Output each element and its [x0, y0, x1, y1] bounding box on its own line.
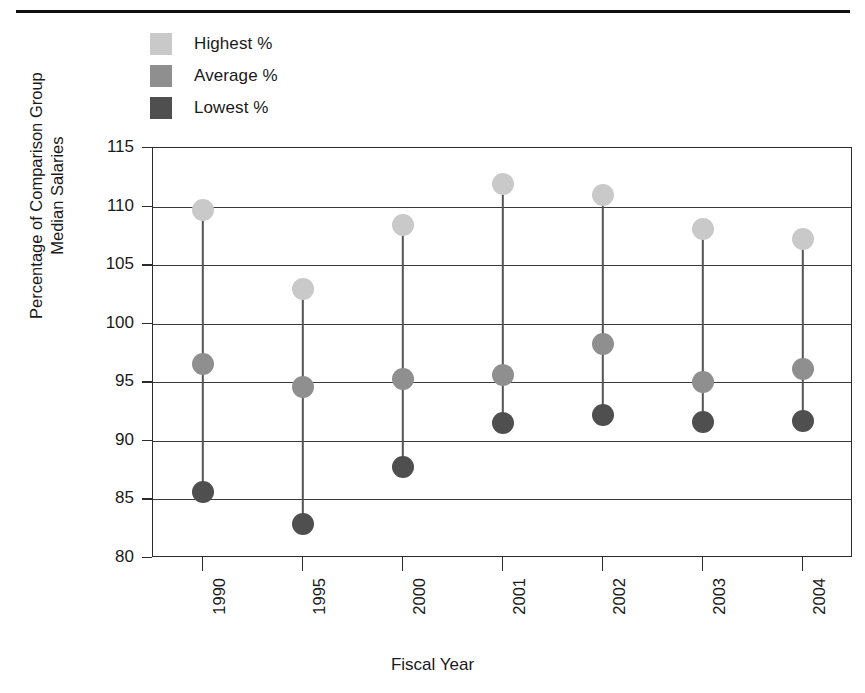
- x-axis-tick-label: 1995: [310, 578, 329, 615]
- x-axis-tick-label: 2004: [810, 578, 829, 615]
- data-point-marker: [292, 278, 314, 300]
- y-axis-tick: [142, 206, 152, 207]
- data-point-marker: [492, 412, 514, 434]
- data-point-marker: [792, 410, 814, 432]
- legend-swatch-icon: [150, 97, 172, 119]
- data-point-marker: [392, 368, 414, 390]
- x-axis-tick: [202, 557, 203, 571]
- y-axis-tick-label: 90: [88, 430, 134, 450]
- x-axis-tick-label: 1990: [210, 578, 229, 615]
- data-point-marker: [592, 184, 614, 206]
- data-point-marker: [692, 411, 714, 433]
- data-point-marker: [492, 173, 514, 195]
- y-axis-tick: [142, 147, 152, 148]
- data-point-marker: [292, 376, 314, 398]
- y-axis: 80859095100105110115: [86, 147, 152, 557]
- y-axis-title: Percentage of Comparison Group Median Sa…: [26, 16, 67, 376]
- y-axis-title-line-1: Percentage of Comparison Group: [26, 16, 47, 376]
- chart-legend: Highest %Average %Lowest %: [150, 28, 278, 124]
- data-point-marker: [192, 353, 214, 375]
- y-axis-tick: [142, 264, 152, 265]
- y-axis-tick-label: 115: [88, 137, 134, 157]
- data-point-marker: [392, 214, 414, 236]
- y-axis-tick-label: 110: [88, 196, 134, 216]
- range-stem: [302, 289, 304, 524]
- gridline: [153, 499, 851, 500]
- y-axis-tick: [142, 381, 152, 382]
- data-point-marker: [792, 228, 814, 250]
- range-stem: [502, 184, 504, 423]
- range-stem: [202, 210, 204, 492]
- x-axis-tick: [402, 557, 403, 571]
- legend-item: Highest %: [150, 28, 278, 60]
- y-axis-tick-label: 85: [88, 488, 134, 508]
- data-point-marker: [392, 456, 414, 478]
- data-point-marker: [192, 481, 214, 503]
- legend-item-label: Average %: [194, 66, 278, 86]
- range-stem: [802, 239, 804, 421]
- y-axis-tick-label: 95: [88, 371, 134, 391]
- y-axis-tick: [142, 557, 152, 558]
- range-stem: [402, 225, 404, 466]
- y-axis-tick: [142, 323, 152, 324]
- legend-swatch-icon: [150, 65, 172, 87]
- data-point-marker: [692, 218, 714, 240]
- page-top-rule: [16, 10, 850, 13]
- data-point-marker: [292, 513, 314, 535]
- x-axis-tick: [602, 557, 603, 571]
- y-axis-tick-label: 80: [88, 547, 134, 567]
- legend-item-label: Highest %: [194, 34, 272, 54]
- x-axis-title: Fiscal Year: [0, 655, 865, 675]
- y-axis-tick: [142, 440, 152, 441]
- x-axis-tick-label: 2003: [710, 578, 729, 615]
- data-point-marker: [692, 371, 714, 393]
- gridline: [153, 441, 851, 442]
- data-point-marker: [592, 333, 614, 355]
- legend-item: Average %: [150, 60, 278, 92]
- data-point-marker: [192, 199, 214, 221]
- x-axis-tick: [302, 557, 303, 571]
- y-axis-tick-label: 100: [88, 313, 134, 333]
- legend-swatch-icon: [150, 33, 172, 55]
- x-axis-tick-label: 2002: [610, 578, 629, 615]
- data-point-marker: [792, 358, 814, 380]
- legend-item: Lowest %: [150, 92, 278, 124]
- range-stem: [602, 195, 604, 415]
- x-axis-tick: [802, 557, 803, 571]
- data-point-marker: [492, 364, 514, 386]
- y-axis-tick-label: 105: [88, 254, 134, 274]
- x-axis-tick-label: 2000: [410, 578, 429, 615]
- x-axis-tick-label: 2001: [510, 578, 529, 615]
- x-axis-tick: [502, 557, 503, 571]
- legend-item-label: Lowest %: [194, 98, 269, 118]
- data-point-marker: [592, 404, 614, 426]
- x-axis-tick: [702, 557, 703, 571]
- y-axis-tick: [142, 498, 152, 499]
- chart-page: Highest %Average %Lowest % 8085909510010…: [0, 0, 865, 693]
- plot-area: [152, 147, 852, 557]
- y-axis-title-line-2: Median Salaries: [47, 16, 68, 376]
